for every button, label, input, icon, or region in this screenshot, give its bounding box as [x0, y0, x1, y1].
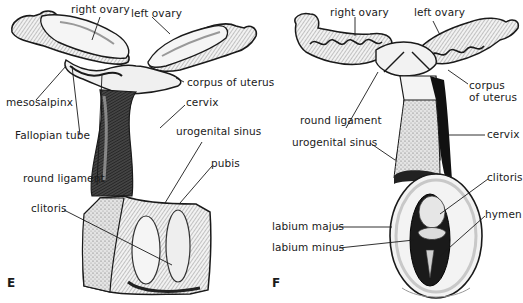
label-right-ovary-e: right ovary — [71, 4, 130, 15]
panel-letter-f: F — [272, 276, 280, 290]
label-clitoris-e: clitoris — [31, 203, 67, 214]
label-corpus-line1-f: corpus — [469, 80, 505, 91]
label-mesosalpinx-e: mesosalpinx — [6, 97, 73, 108]
panel-e-right-ovary-shape — [12, 11, 129, 64]
label-urogenital-sinus-f: urogenital sinus — [292, 137, 377, 148]
label-left-ovary-f: left ovary — [414, 7, 465, 18]
label-round-ligament-f: round ligament — [300, 115, 382, 126]
panel-letter-e: E — [7, 276, 15, 290]
label-corpus-of-uterus-e: corpus of uterus — [187, 77, 274, 88]
panel-e-left-ovary-shape — [148, 24, 256, 71]
label-round-ligament-e: round ligament — [23, 173, 105, 184]
label-labium-majus-f: labium majus — [272, 221, 344, 232]
label-right-ovary-f: right ovary — [330, 7, 389, 18]
panel-f-cervix-shape — [394, 100, 440, 180]
label-labium-minus-f: labium minus — [272, 242, 344, 253]
label-pubis-e: pubis — [211, 158, 240, 169]
label-urogenital-sinus-e: urogenital sinus — [176, 126, 261, 137]
illustration-canvas — [0, 0, 523, 303]
panel-f-drawing — [295, 14, 518, 298]
label-left-ovary-e: left ovary — [131, 8, 182, 19]
label-fallopian-tube-e: Fallopian tube — [15, 130, 90, 141]
panel-e-drawing — [12, 11, 257, 295]
label-hymen-f: hymen — [485, 209, 522, 220]
label-cervix-e: cervix — [186, 97, 219, 108]
label-clitoris-f: clitoris — [487, 172, 523, 183]
label-cervix-f: cervix — [487, 129, 520, 140]
label-corpus-line2-f: of uterus — [469, 92, 517, 103]
anatomy-figure: right ovary left ovary corpus of uterus … — [0, 0, 523, 303]
